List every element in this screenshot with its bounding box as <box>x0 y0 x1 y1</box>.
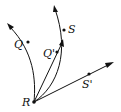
label-q-prime: Q' <box>43 47 55 60</box>
point-q <box>26 40 29 43</box>
arrowhead-q-icon <box>7 23 14 30</box>
arrowhead-s-icon <box>53 5 58 12</box>
point-s <box>62 28 65 31</box>
label-q: Q <box>14 38 23 51</box>
label-r: R <box>21 96 30 109</box>
ray-s-prime <box>34 64 110 102</box>
label-s-prime: S' <box>82 78 93 91</box>
arrowhead-s-prime-icon <box>105 62 114 68</box>
diagram-canvas: R Q S Q' S' <box>0 0 121 112</box>
point-s-prime <box>87 72 90 75</box>
label-s: S <box>68 23 76 36</box>
point-r <box>32 100 36 104</box>
point-q-prime <box>55 50 58 53</box>
